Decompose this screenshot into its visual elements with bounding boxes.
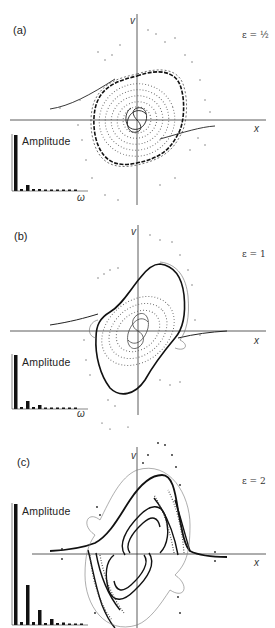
phase-portrait-b [0,210,275,415]
amplitude-label-b: Amplitude [22,357,71,368]
epsilon-label-b: ε = 1 [242,250,266,259]
v-axis-label-c: v [131,451,136,461]
amplitude-label-a: Amplitude [22,136,71,147]
x-axis-label-a: x [254,124,259,134]
panel-label-a: (a) [13,25,26,36]
epsilon-label-a: ε = ½ [242,31,269,40]
panel-a: (a) v x ε = ½ Amplitude ω [0,0,275,210]
x-axis-label-c: x [254,558,259,568]
amplitude-label-c: Amplitude [22,506,71,517]
panel-b: (b) v x ε = 1 Amplitude ω [0,210,275,415]
amplitude-histogram-c [12,503,88,625]
epsilon-label-c: ε = 2 [242,477,266,486]
omega-label-a: ω [77,193,85,203]
v-axis-label-a: v [130,16,135,26]
x-axis-label-b: x [254,336,259,346]
panel-label-c: (c) [17,457,30,468]
phase-portrait-a [0,0,275,210]
phase-portrait-c [0,415,275,628]
v-axis-label-b: v [131,227,136,237]
panel-c: (c) v x ε = 2 Amplitude [0,415,275,628]
panel-label-b: (b) [14,231,27,242]
